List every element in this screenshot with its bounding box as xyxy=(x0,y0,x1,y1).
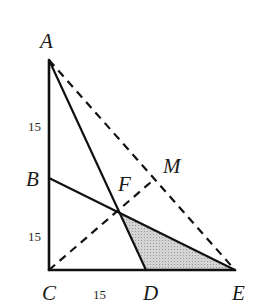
length-label-cd: 15 xyxy=(93,287,106,302)
point-label-m: M xyxy=(162,154,182,178)
segment-ad xyxy=(49,60,146,270)
point-label-f: F xyxy=(117,172,131,196)
point-label-d: D xyxy=(142,281,158,305)
length-label-bc: 15 xyxy=(28,229,41,244)
point-label-e: E xyxy=(231,281,245,305)
geometry-diagram: A B C D E F M 15 15 15 xyxy=(0,0,255,308)
length-label-ab: 15 xyxy=(28,119,41,134)
point-label-c: C xyxy=(42,281,57,305)
point-label-b: B xyxy=(26,167,39,191)
point-label-a: A xyxy=(38,29,53,53)
